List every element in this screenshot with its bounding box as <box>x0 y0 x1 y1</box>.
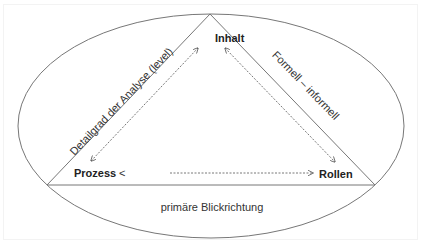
node-prozess-suffix: < <box>119 167 125 179</box>
node-rollen: Rollen <box>319 168 353 180</box>
label-primaere-blickrichtung: primäre Blickrichtung <box>161 201 264 213</box>
diagram-canvas: Inhalt Prozess < Rollen Detailgrad der A… <box>0 0 424 249</box>
label-detailgrad: Detailgrad der Analyse (level) <box>67 45 175 157</box>
node-prozess: Prozess <box>74 167 116 179</box>
label-formell-informell: Formell – informell <box>270 49 341 122</box>
arrow-prozess-inhalt <box>91 48 198 161</box>
node-inhalt: Inhalt <box>215 32 245 44</box>
